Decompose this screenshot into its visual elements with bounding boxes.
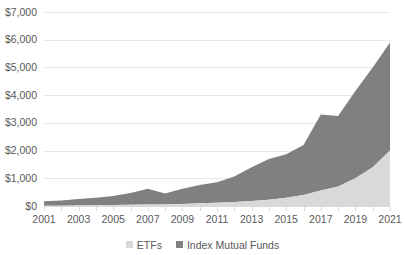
chart-canvas: $0$1,000$2,000$3,000$4,000$5,000$6,000$7… [0,0,405,255]
x-axis-tick-label: 2019 [344,213,368,225]
y-axis-tick-label: $6,000 [5,33,37,45]
y-axis-tick-label: $1,000 [5,172,37,184]
x-axis-tick-label: 2007 [136,213,160,225]
x-axis-tick-label: 2011 [206,213,229,225]
y-axis-tick-label: $7,000 [5,6,37,18]
x-axis-tick-label: 2009 [171,213,195,225]
area-index-mutual-funds [44,42,390,205]
x-axis-tick-label: 2005 [102,213,126,225]
x-axis-tick-label: 2001 [32,213,56,225]
y-axis-tick-label: $5,000 [5,61,37,73]
legend-swatch-index-mutual-funds [176,241,183,248]
chart-legend: ETFs Index Mutual Funds [0,240,405,251]
x-axis-tick-label: 2021 [378,213,402,225]
x-axis-labels: 2001200320052007200920112013201520172019… [32,213,402,225]
y-axis-tick-label: $0 [25,200,37,212]
y-axis-tick-label: $3,000 [5,116,37,128]
y-axis-labels: $0$1,000$2,000$3,000$4,000$5,000$6,000$7… [5,6,37,212]
legend-entry-etfs[interactable]: ETFs [126,240,162,251]
y-axis-tick-label: $2,000 [5,144,37,156]
x-axis-tick-label: 2015 [275,213,299,225]
x-tickmarks [45,207,391,211]
x-axis-tick-label: 2017 [309,213,333,225]
plot-area: $0$1,000$2,000$3,000$4,000$5,000$6,000$7… [0,0,405,255]
area-chart: $0$1,000$2,000$3,000$4,000$5,000$6,000$7… [0,0,405,255]
legend-entry-index-mutual-funds[interactable]: Index Mutual Funds [176,240,279,251]
legend-label-index-mutual-funds: Index Mutual Funds [187,240,279,251]
legend-label-etfs: ETFs [137,240,162,251]
y-axis-tick-label: $4,000 [5,89,37,101]
x-axis-tick-label: 2013 [240,213,264,225]
x-axis-tick-label: 2003 [67,213,91,225]
legend-swatch-etfs [126,241,133,248]
